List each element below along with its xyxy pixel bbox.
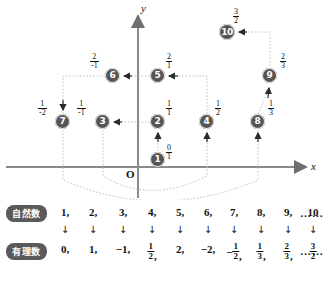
- fraction-numerator: 1: [166, 100, 172, 108]
- natural-number-cell: 7,: [230, 206, 238, 218]
- rational-number-cell: 12,: [147, 242, 156, 262]
- natural-number-cell: 4,: [148, 206, 156, 218]
- mapping-arrow-icon: ↓: [176, 224, 184, 235]
- natural-number-cell: 1,: [61, 206, 69, 218]
- fraction-denominator: 3: [280, 61, 286, 70]
- fraction-numerator: 2: [90, 53, 99, 61]
- rational-number-cell: −2,: [201, 242, 216, 255]
- fraction-numerator: 2: [166, 53, 172, 61]
- row-label-rational-numbers: 有理数: [6, 243, 47, 260]
- node-1[interactable]: 1: [150, 152, 165, 167]
- separator-comma: ,: [181, 243, 184, 255]
- mapping-arrow-icon: ↓: [119, 224, 127, 235]
- natural-number-cell: 5,: [176, 206, 184, 218]
- row-label-natural-numbers: 自然数: [6, 205, 47, 222]
- fraction-label-node-8: 1 3: [268, 100, 274, 118]
- origin-label: O: [126, 168, 135, 180]
- node-3[interactable]: 3: [95, 114, 110, 129]
- y-axis-label: y: [141, 2, 146, 14]
- separator-comma: ,: [66, 243, 69, 255]
- fraction-numerator: 1: [77, 100, 86, 108]
- fraction-label-node-5: 2 1: [166, 53, 172, 71]
- fraction-denominator: 1: [166, 152, 172, 161]
- node-10[interactable]: 10: [219, 24, 235, 40]
- separator-comma: ,: [94, 243, 97, 255]
- fraction-numerator: 2: [280, 53, 286, 61]
- rational-number-cell: 13,: [256, 242, 265, 262]
- fraction-denominator: -1: [77, 108, 86, 117]
- separator-comma: ,: [239, 250, 242, 262]
- node-6[interactable]: 6: [105, 68, 120, 83]
- natural-ellipsis: ……: [300, 207, 324, 219]
- mapping-arrow-icon: ↓: [89, 224, 97, 235]
- natural-number-cell: 9,: [284, 206, 292, 218]
- x-axis-label: x: [311, 160, 316, 172]
- fraction-label-node-1: 0 1: [166, 144, 172, 162]
- rational-number-cell: 23,: [283, 242, 292, 262]
- rational-number-cell: −12,: [226, 242, 242, 262]
- fraction-label-node-7: 1 -2: [38, 100, 47, 118]
- separator-comma: ,: [213, 243, 216, 255]
- natural-number-cell: 8,: [257, 206, 265, 218]
- correspondence-table: 自然数 有理数 1,↓0,2,↓1,3,↓−1,4,↓12,5,↓2,6,↓−2…: [0, 200, 325, 282]
- fraction-numerator: 1: [215, 100, 221, 108]
- path-arrowheads: [63, 32, 269, 142]
- node-4[interactable]: 4: [199, 114, 214, 129]
- fraction-label-node-10: 3 2: [233, 8, 239, 26]
- separator-comma: ,: [154, 250, 157, 262]
- fraction-denominator: 1: [166, 108, 172, 117]
- natural-number-cell: 3,: [119, 206, 127, 218]
- fraction-denominator: -1: [90, 61, 99, 70]
- mapping-arrow-icon: ↓: [257, 224, 265, 235]
- node-8[interactable]: 8: [250, 114, 265, 129]
- fraction-denominator: 1: [166, 61, 172, 70]
- fraction-label-node-9: 2 3: [280, 53, 286, 71]
- mapping-arrow-icon: ↓: [204, 224, 212, 235]
- node-9[interactable]: 9: [262, 68, 277, 83]
- rational-number-cell: 2,: [176, 242, 184, 255]
- natural-number-cell: 2,: [89, 206, 97, 218]
- fraction-numerator: 1: [38, 100, 47, 108]
- rational-ellipsis: ……: [300, 245, 324, 257]
- fraction-numerator: 3: [233, 8, 239, 16]
- rational-number-cell: 1,: [89, 242, 97, 255]
- diagram-canvas: [0, 0, 325, 200]
- rational-number-cell: −1,: [116, 242, 131, 255]
- separator-comma: ,: [263, 250, 266, 262]
- fraction-label-node-3: 1 -1: [77, 100, 86, 118]
- fraction-denominator: 2: [215, 108, 221, 117]
- separator-comma: ,: [128, 243, 131, 255]
- node-7[interactable]: 7: [55, 114, 70, 129]
- fraction-label-node-6: 2 -1: [90, 53, 99, 71]
- separator-comma: ,: [290, 250, 293, 262]
- node-5[interactable]: 5: [150, 68, 165, 83]
- fraction-denominator: 2: [233, 16, 239, 25]
- natural-number-cell: 6,: [204, 206, 212, 218]
- mapping-arrow-icon: ↓: [148, 224, 156, 235]
- mapping-arrow-icon: ↓: [61, 224, 69, 235]
- mapping-arrow-icon: ↓: [309, 224, 317, 235]
- fraction-numerator: 1: [268, 100, 274, 108]
- mapping-arrow-icon: ↓: [230, 224, 238, 235]
- fraction-label-node-4: 1 2: [215, 100, 221, 118]
- fraction-denominator: 3: [268, 108, 274, 117]
- rational-number-cell: 0,: [61, 242, 69, 255]
- cantor-enumeration-diagram: x y O 1 2 3 4 5 6 7 8 9 10 0 1 1 1 1 -1 …: [0, 0, 325, 200]
- node-2[interactable]: 2: [150, 114, 165, 129]
- fraction-numerator: 0: [166, 144, 172, 152]
- fraction-denominator: -2: [38, 108, 47, 117]
- mapping-arrow-icon: ↓: [284, 224, 292, 235]
- fraction-label-node-2: 1 1: [166, 100, 172, 118]
